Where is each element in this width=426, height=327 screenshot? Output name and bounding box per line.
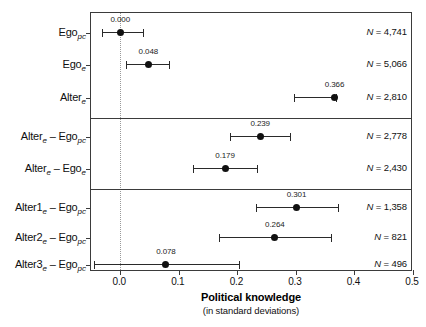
y-axis-label: Altere – Egoe [25, 162, 86, 174]
y-axis-label: Alter3e – Egopc [15, 258, 86, 270]
estimate-value-label: 0.366 [325, 80, 345, 89]
estimate-value-label: 0.264 [265, 220, 285, 229]
estimate-point [145, 61, 152, 68]
ci-cap-upper [331, 234, 332, 242]
ci-cap-upper [169, 61, 170, 69]
x-axis-tick [413, 270, 414, 275]
estimate-value-label: 0.048 [139, 47, 159, 56]
estimate-point [162, 261, 169, 268]
estimate-point [271, 234, 278, 241]
ci-cap-upper [290, 133, 291, 141]
sample-size-label: N = 5,066 [366, 58, 407, 69]
sample-size-label: N = 2,778 [366, 130, 407, 141]
sample-size-label: N = 821 [374, 231, 407, 242]
estimate-point [117, 29, 124, 36]
x-axis-title: Political knowledge [90, 291, 412, 303]
ci-cap-lower [294, 94, 295, 102]
y-axis-label: Alter2e – Egopc [15, 231, 86, 243]
estimate-value-label: 0.078 [156, 247, 176, 256]
y-axis-tick [86, 137, 91, 138]
y-axis-tick [86, 33, 91, 34]
confidence-interval-line [294, 97, 337, 98]
y-axis-label: Altere – Egopc [21, 130, 86, 142]
x-axis-tick-label: 0.5 [405, 276, 418, 287]
ci-cap-lower [230, 133, 231, 141]
forest-plot-figure: 0.000N = 4,7410.048N = 5,0660.366N = 2,8… [0, 0, 426, 327]
estimate-point [293, 204, 300, 211]
estimate-value-label: 0.239 [250, 119, 270, 128]
estimate-value-label: 0.000 [111, 15, 131, 24]
ci-cap-upper [143, 29, 144, 37]
y-axis-tick [86, 208, 91, 209]
ci-cap-upper [257, 165, 258, 173]
x-axis-tick [354, 270, 355, 275]
x-axis-tick-label: 0.1 [171, 276, 184, 287]
x-axis-tick [179, 270, 180, 275]
estimate-point [222, 165, 229, 172]
x-axis-tick [296, 270, 297, 275]
sample-size-label: N = 4,741 [366, 26, 407, 37]
sample-size-label: N = 2,810 [366, 91, 407, 102]
x-axis-tick-label: 0.2 [230, 276, 243, 287]
zero-reference-line [120, 13, 121, 270]
x-axis-subtitle: (in standard deviations) [90, 305, 412, 316]
plot-area: 0.000N = 4,7410.048N = 5,0660.366N = 2,8… [90, 12, 412, 271]
ci-cap-upper [239, 261, 240, 269]
ci-cap-lower [256, 204, 257, 212]
y-axis-label: Alter1e – Egopc [15, 201, 86, 213]
y-axis-label: Altere [60, 91, 86, 103]
x-axis-tick [120, 270, 121, 275]
x-axis-tick-label: 0.4 [347, 276, 360, 287]
x-axis-tick [237, 270, 238, 275]
x-axis-tick-label: 0.3 [288, 276, 301, 287]
sample-size-label: N = 2,430 [366, 162, 407, 173]
estimate-point [331, 94, 338, 101]
panel-divider-2 [91, 189, 411, 190]
x-axis-tick-label: 0.0 [113, 276, 126, 287]
y-axis-tick [86, 98, 91, 99]
y-axis-tick [86, 65, 91, 66]
ci-cap-upper [338, 204, 339, 212]
ci-cap-lower [94, 261, 95, 269]
ci-cap-lower [126, 61, 127, 69]
y-axis-label: Egoe [63, 58, 86, 70]
estimate-value-label: 0.179 [215, 151, 235, 160]
y-axis-tick [86, 238, 91, 239]
estimate-point [257, 133, 264, 140]
ci-cap-lower [219, 234, 220, 242]
sample-size-label: N = 496 [374, 258, 407, 269]
y-axis-tick [86, 169, 91, 170]
estimate-value-label: 0.301 [287, 190, 307, 199]
y-axis-tick [86, 265, 91, 266]
sample-size-label: N = 1,358 [366, 201, 407, 212]
ci-cap-lower [102, 29, 103, 37]
y-axis-label: Egopc [59, 26, 86, 38]
ci-cap-lower [193, 165, 194, 173]
